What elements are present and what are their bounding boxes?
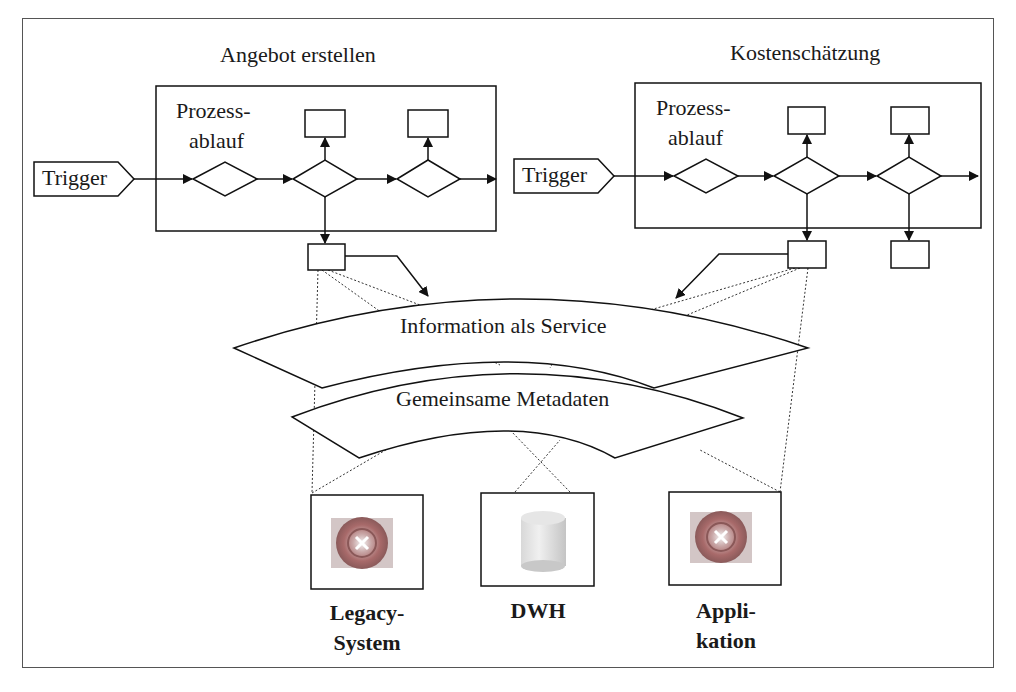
process-label-line1: Prozess-	[176, 97, 251, 125]
process-label-line2: ablauf	[189, 127, 244, 155]
decision-diamond	[397, 160, 460, 197]
decision-diamond	[293, 160, 357, 197]
system-label-line2: System	[312, 628, 422, 658]
data-box	[891, 241, 929, 268]
database-cylinder-icon	[521, 518, 566, 566]
system-label-line1: DWH	[482, 596, 594, 626]
trigger-label: Trigger	[42, 165, 107, 191]
process-angebot	[34, 86, 496, 296]
system-label-dwh: DWH	[482, 596, 594, 626]
system-label-applikation: Appli- kation	[670, 596, 782, 656]
output-box	[891, 107, 929, 134]
decision-diamond	[877, 157, 941, 194]
system-applikation	[669, 492, 781, 585]
output-box	[788, 107, 825, 134]
data-box	[308, 244, 345, 270]
process-title-angebot: Angebot erstellen	[220, 42, 376, 68]
system-label-line2: kation	[670, 626, 782, 656]
decision-diamond	[193, 162, 257, 196]
system-dwh	[481, 493, 594, 586]
system-label-legacy: Legacy- System	[312, 598, 422, 658]
trigger-label: Trigger	[522, 162, 587, 188]
output-box	[305, 110, 345, 137]
system-label-line1: Appli-	[670, 596, 782, 626]
process-kostenschaetzung	[514, 83, 981, 298]
process-title-kosten: Kostenschätzung	[730, 40, 880, 66]
process-label-line2: ablauf	[668, 124, 723, 152]
output-box	[408, 110, 448, 137]
metadata-layer-label: Gemeinsame Metadaten	[396, 386, 609, 412]
process-label-line1: Prozess-	[656, 94, 731, 122]
system-legacy	[311, 495, 423, 589]
decision-diamond	[774, 157, 839, 194]
service-layer-label: Information als Service	[400, 313, 607, 339]
architecture-diagram	[0, 0, 1016, 692]
decision-diamond	[674, 159, 738, 193]
data-box	[788, 241, 826, 268]
system-label-line1: Legacy-	[312, 598, 422, 628]
